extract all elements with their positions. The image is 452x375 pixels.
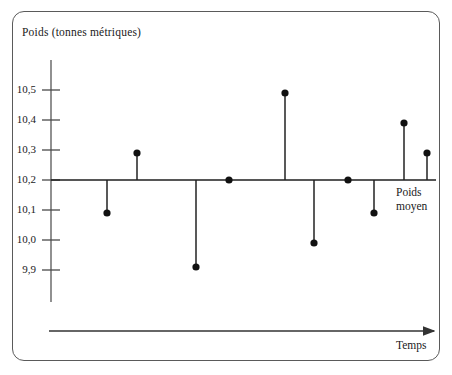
data-point-marker[interactable]	[133, 149, 140, 156]
plot-canvas	[0, 0, 452, 375]
data-point-marker[interactable]	[423, 149, 430, 156]
data-point-marker[interactable]	[103, 209, 110, 216]
data-point-marker[interactable]	[370, 209, 377, 216]
axes-group	[42, 60, 436, 302]
mean-line-label-line1: Poids	[396, 185, 427, 199]
y-tick-label: 10,2	[2, 173, 36, 185]
y-tick-label: 10,1	[2, 203, 36, 215]
y-tick-label: 10,4	[2, 113, 36, 125]
mean-line-label: Poids moyen	[396, 185, 427, 213]
data-point-marker[interactable]	[192, 263, 199, 270]
data-point-marker[interactable]	[310, 239, 317, 246]
mean-line-label-line2: moyen	[396, 199, 427, 213]
y-tick-label: 9,9	[2, 263, 36, 275]
data-point-marker[interactable]	[344, 176, 351, 183]
data-point-marker[interactable]	[281, 89, 288, 96]
data-point-marker[interactable]	[400, 119, 407, 126]
data-point-marker[interactable]	[225, 176, 232, 183]
y-tick-label: 10,5	[2, 83, 36, 95]
x-axis-label: Temps	[396, 339, 427, 351]
y-tick-label: 10,0	[2, 233, 36, 245]
chart-figure: Poids (tonnes métriques) 10,510,410,310,…	[0, 0, 452, 375]
y-tick-label: 10,3	[2, 143, 36, 155]
